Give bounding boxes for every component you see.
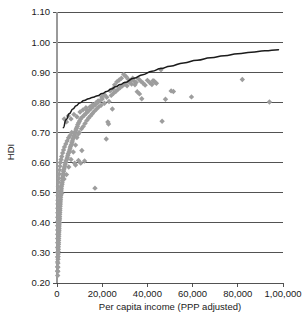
y-tick-label: 0.80 xyxy=(32,97,51,108)
data-point xyxy=(79,148,84,153)
x-tick-label: 0 xyxy=(54,288,59,299)
data-point xyxy=(104,136,109,141)
y-tick-label: 0.30 xyxy=(32,247,51,258)
y-tick-label: 0.40 xyxy=(32,217,51,228)
data-point xyxy=(55,268,60,273)
tickmarks-group xyxy=(53,12,283,287)
data-point xyxy=(159,119,164,124)
x-axis-title: Per capita income (PPP adjusted) xyxy=(99,301,241,312)
data-point xyxy=(110,106,115,111)
x-tick-label: 60,000 xyxy=(178,288,207,299)
data-point xyxy=(189,94,194,99)
y-tick-label: 0.70 xyxy=(32,127,51,138)
y-axis-title: HDI xyxy=(5,144,16,160)
y-tick-label: 0.60 xyxy=(32,157,51,168)
hdi-income-scatter-chart: 0.200.300.400.500.600.700.800.901.001.10… xyxy=(0,0,303,327)
data-point xyxy=(92,185,97,190)
x-axis-tick-labels: 020,00040,00060,00080,0001,00,000 xyxy=(54,288,301,299)
y-axis-tick-labels: 0.200.300.400.500.600.700.800.901.001.10 xyxy=(32,6,51,288)
x-tick-label: 80,000 xyxy=(223,288,252,299)
x-tick-label: 40,000 xyxy=(133,288,162,299)
y-tick-label: 1.00 xyxy=(32,37,51,48)
y-tick-label: 0.20 xyxy=(32,277,51,288)
y-tick-label: 0.90 xyxy=(32,67,51,78)
data-point xyxy=(267,99,272,104)
x-tick-label: 1,00,000 xyxy=(265,288,302,299)
chart-figure: 0.200.300.400.500.600.700.800.901.001.10… xyxy=(0,0,303,327)
y-tick-label: 0.50 xyxy=(32,187,51,198)
y-tick-label: 1.10 xyxy=(32,6,51,17)
data-point xyxy=(163,97,168,102)
x-tick-label: 20,000 xyxy=(88,288,117,299)
data-point xyxy=(240,77,245,82)
data-point xyxy=(139,96,144,101)
